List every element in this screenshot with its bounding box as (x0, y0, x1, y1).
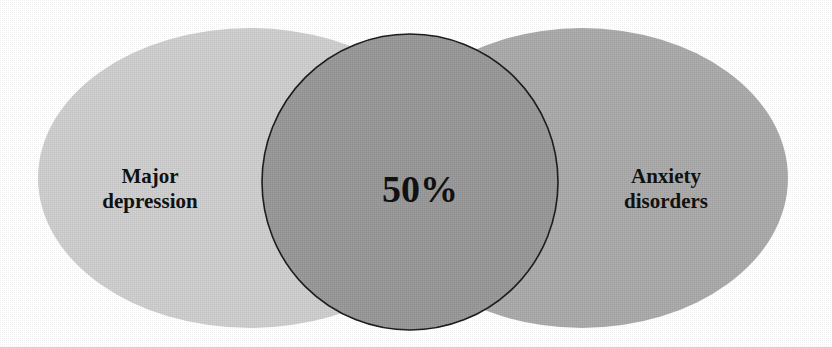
venn-diagram: Major depression 50% Anxiety disorders (0, 0, 832, 347)
anxiety-disorders-line-2: disorders (586, 189, 746, 214)
overlap-percentage: 50% (340, 164, 500, 214)
major-depression-label: Major depression (70, 164, 230, 214)
anxiety-disorders-label: Anxiety disorders (586, 164, 746, 214)
anxiety-disorders-line-1: Anxiety (586, 164, 746, 189)
major-depression-line-2: depression (70, 189, 230, 214)
major-depression-line-1: Major (70, 164, 230, 189)
